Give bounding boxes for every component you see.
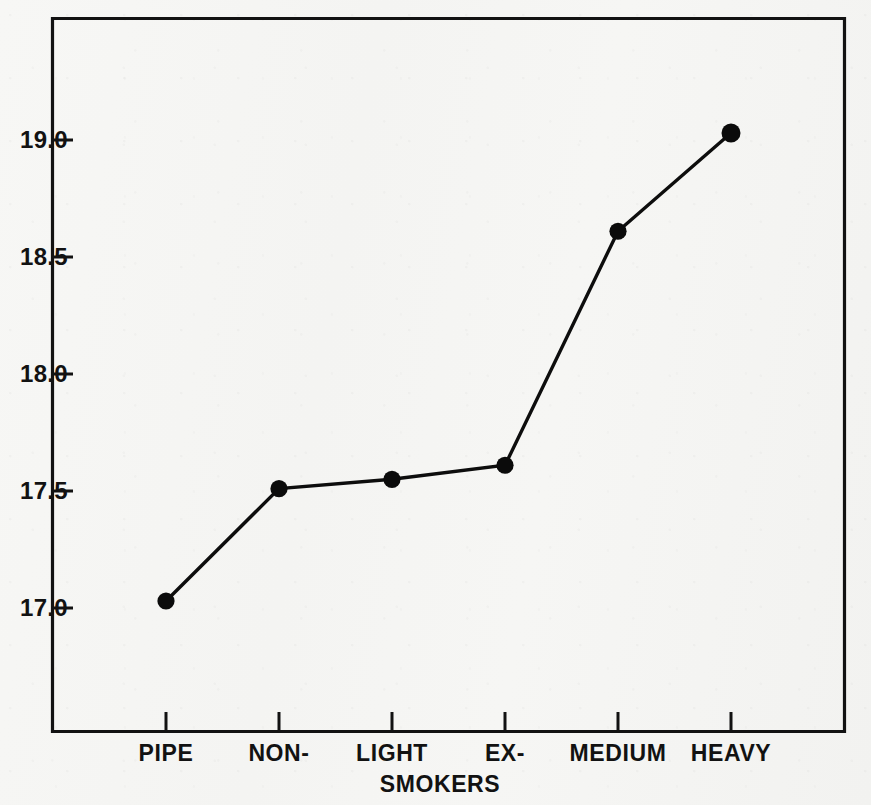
y-axis-label-17-5: 17.5 [20, 477, 68, 505]
data-point [383, 471, 400, 488]
y-axis-label-17-0: 17.0 [20, 594, 68, 622]
line-chart-plot [0, 0, 871, 805]
chart-figure: 19.0 18.5 18.0 17.5 17.0 PIPE NON- LIGHT… [0, 0, 871, 805]
x-axis-label-medium: MEDIUM [570, 740, 667, 767]
data-series [157, 123, 740, 609]
data-point [609, 223, 626, 240]
x-axis-ticks [166, 712, 731, 732]
data-point [157, 592, 174, 609]
series-markers [157, 123, 740, 609]
y-axis-label-19-0: 19.0 [20, 126, 68, 154]
x-axis-label-ex: EX- [485, 740, 525, 767]
y-axis-label-18-0: 18.0 [20, 360, 68, 388]
x-axis-label-heavy: HEAVY [691, 740, 772, 767]
data-point [270, 480, 287, 497]
x-axis-label-non: NON- [248, 740, 309, 767]
data-point [496, 457, 513, 474]
x-axis-label-pipe: PIPE [139, 740, 194, 767]
x-axis-label-light: LIGHT [356, 740, 428, 767]
data-point [722, 123, 741, 142]
y-axis-label-18-5: 18.5 [20, 243, 68, 271]
x-axis-title: SMOKERS [380, 771, 501, 798]
series-line-path [166, 133, 731, 601]
